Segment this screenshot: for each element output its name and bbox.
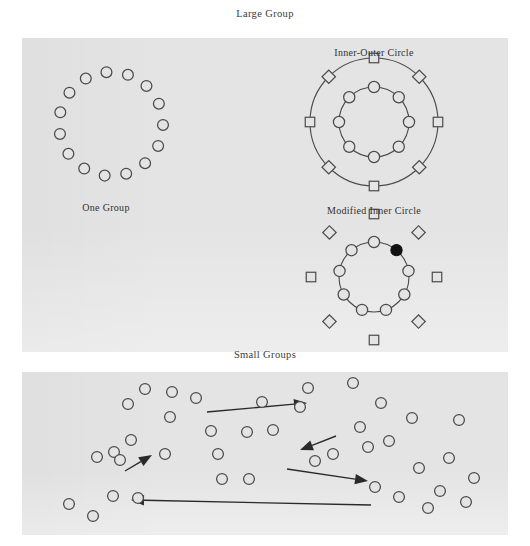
label-inner-outer-circle: Inner-Outer Circle <box>334 47 413 58</box>
outer-square-node <box>433 117 443 127</box>
small-group-node <box>268 425 279 436</box>
small-group-node <box>303 383 314 394</box>
diagram-one-group <box>55 67 169 181</box>
small-group-node <box>407 413 418 424</box>
group-node <box>63 148 74 159</box>
small-group-node <box>376 398 387 409</box>
arrow-head <box>138 455 152 466</box>
small-group-node <box>108 491 119 502</box>
small-group-node <box>140 384 151 395</box>
outer-square-node <box>432 272 442 282</box>
small-group-node <box>348 378 359 389</box>
inner-circle-node <box>399 289 410 300</box>
group-node <box>80 73 91 84</box>
group-node <box>123 69 134 80</box>
small-group-node <box>244 474 255 485</box>
small-group-node <box>355 422 366 433</box>
inner-circle-node <box>403 265 414 276</box>
small-group-node <box>363 442 374 453</box>
small-group-node <box>64 499 75 510</box>
group-node <box>101 67 112 78</box>
outer-square-node <box>323 226 336 239</box>
small-group-node <box>126 435 137 446</box>
arrow-shaft <box>312 436 336 445</box>
label-modified-inner-circle: Modified Inner Circle <box>327 205 421 216</box>
small-group-node <box>191 393 202 404</box>
group-node <box>158 120 169 131</box>
small-group-node <box>423 503 434 514</box>
figure-canvas: Large Group Small Groups One Group Inner… <box>0 0 530 546</box>
inner-circle-node <box>368 81 379 92</box>
diagram-artwork <box>0 0 530 546</box>
outer-square-node <box>369 181 379 191</box>
inner-circle-node <box>393 141 404 152</box>
diagram-inner-outer-circle <box>305 53 443 191</box>
small-group-node <box>328 449 339 460</box>
arrow-shaft <box>287 469 355 479</box>
inner-circle-node <box>356 304 367 315</box>
outer-square-node <box>412 226 425 239</box>
small-group-node <box>384 436 395 447</box>
outer-square-node <box>369 335 379 345</box>
group-node <box>141 81 152 92</box>
small-group-node <box>414 463 425 474</box>
small-group-node <box>435 486 446 497</box>
outer-square-node <box>323 315 336 328</box>
arrow-long-left-bottom <box>131 495 371 505</box>
small-group-node <box>92 452 103 463</box>
small-group-node <box>469 473 480 484</box>
arrow-shaft <box>207 404 294 412</box>
group-node <box>55 107 66 118</box>
inner-circle-node <box>380 304 391 315</box>
arrow-left-short-up <box>125 455 152 471</box>
arrow-head <box>300 440 314 450</box>
small-group-node <box>454 415 465 426</box>
diagram-modified-inner-circle <box>306 209 442 345</box>
outer-square-node <box>412 315 425 328</box>
group-node <box>64 87 75 98</box>
inner-circle-node <box>344 92 355 103</box>
small-group-node <box>444 453 455 464</box>
small-group-node <box>461 497 472 508</box>
small-group-node <box>394 492 405 503</box>
arrow-shaft <box>144 500 371 505</box>
small-group-node <box>213 449 224 460</box>
inner-circle-node <box>403 116 414 127</box>
arrow-shaft <box>125 462 141 471</box>
group-node <box>79 163 90 174</box>
small-group-node <box>165 412 176 423</box>
label-one-group: One Group <box>82 202 129 213</box>
group-node <box>153 98 164 109</box>
outer-square-node <box>305 117 315 127</box>
inner-circle-node <box>346 245 357 256</box>
small-group-node <box>310 456 321 467</box>
inner-circle-node-filled <box>391 245 402 256</box>
inner-circle-node <box>344 141 355 152</box>
group-node <box>153 141 164 152</box>
inner-circle-node <box>368 151 379 162</box>
small-group-node <box>217 474 228 485</box>
inner-circle-node <box>393 92 404 103</box>
small-group-node <box>167 387 178 398</box>
small-group-node <box>160 449 171 460</box>
group-node <box>55 129 66 140</box>
arrow-short-down-left <box>300 436 336 450</box>
arrow-head <box>354 474 368 484</box>
inner-circle-node <box>333 116 344 127</box>
outer-square-node <box>306 272 316 282</box>
diagram-small-groups <box>64 378 480 522</box>
small-group-node <box>257 397 268 408</box>
inner-circle-node <box>368 236 379 247</box>
inner-circle-node <box>334 265 345 276</box>
small-group-node <box>370 482 381 493</box>
small-group-node <box>242 427 253 438</box>
small-group-node <box>133 493 144 504</box>
small-group-node <box>88 511 99 522</box>
small-group-node <box>123 399 134 410</box>
group-node <box>99 170 110 181</box>
inner-circle-node <box>338 289 349 300</box>
group-node <box>121 168 132 179</box>
small-group-node <box>295 402 306 413</box>
small-group-node <box>206 426 217 437</box>
group-node <box>140 158 151 169</box>
